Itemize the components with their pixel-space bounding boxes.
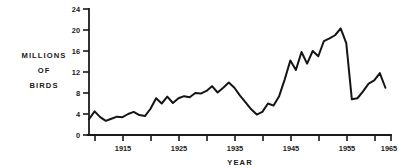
- x-tick-label-1935: 1935: [227, 144, 243, 153]
- bird-population-series: [89, 28, 385, 120]
- y-axis-label-line-3: BIRDS: [29, 81, 58, 90]
- chart-canvas: MILLIONS OF BIRDS 0 4 8 12 16 20 24: [0, 0, 404, 168]
- x-tick-label-1955: 1955: [339, 144, 355, 153]
- x-axis-ticks: 1915 1925 1935 1945 1955 1965: [95, 135, 397, 153]
- y-tick-label-20: 20: [72, 26, 80, 35]
- x-tick-label-1915: 1915: [115, 144, 131, 153]
- y-axis-label-line-2: OF: [38, 66, 51, 75]
- y-tick-label-0: 0: [76, 131, 80, 140]
- x-tick-label-1945: 1945: [283, 144, 299, 153]
- y-tick-label-16: 16: [72, 47, 80, 56]
- bird-population-line-chart: MILLIONS OF BIRDS 0 4 8 12 16 20 24: [0, 0, 404, 168]
- y-axis-ticks: 0 4 8 12 16 20 24: [72, 5, 89, 140]
- y-tick-label-8: 8: [76, 89, 80, 98]
- y-tick-label-4: 4: [76, 110, 81, 119]
- x-axis-title: YEAR: [227, 158, 253, 167]
- y-axis-label: MILLIONS OF BIRDS: [21, 51, 66, 90]
- y-tick-label-24: 24: [72, 5, 81, 14]
- y-axis-label-line-1: MILLIONS: [21, 51, 66, 60]
- y-tick-label-12: 12: [72, 68, 80, 77]
- x-tick-label-1965: 1965: [381, 144, 397, 153]
- x-tick-label-1925: 1925: [171, 144, 187, 153]
